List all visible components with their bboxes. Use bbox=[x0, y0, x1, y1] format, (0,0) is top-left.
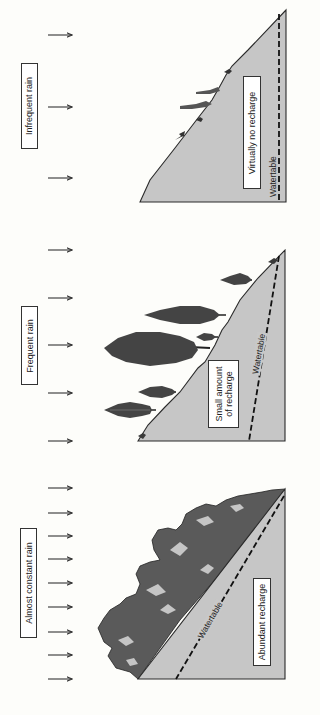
rain-label-frequent: Frequent rain bbox=[21, 306, 38, 385]
rain-label-text: Frequent rain bbox=[25, 319, 35, 373]
conifer-tree-icon bbox=[104, 332, 210, 366]
rain-arrows bbox=[48, 35, 72, 178]
watertable-label: Watertable bbox=[268, 156, 278, 197]
conifer-tree-icon bbox=[138, 386, 176, 398]
rain-arrows bbox=[48, 250, 72, 441]
rain-label-text: Almost constant rain bbox=[24, 542, 34, 624]
conifer-tree-icon bbox=[220, 273, 252, 285]
conifer-tree-icon bbox=[144, 306, 226, 324]
rain-label-infrequent: Infrequent rain bbox=[21, 63, 38, 149]
rain-label-almost-constant: Almost constant rain bbox=[20, 528, 37, 638]
recharge-label-text: Virtually no recharge bbox=[247, 91, 257, 173]
conifer-tree-icon bbox=[104, 402, 156, 418]
recharge-label-text: Small amount of recharge bbox=[214, 366, 234, 421]
panel-frequent-rain bbox=[48, 250, 285, 441]
conifer-tree-icon bbox=[196, 333, 218, 341]
panel-almost-constant-rain bbox=[48, 488, 285, 679]
recharge-label-abundant: Abundant recharge bbox=[253, 578, 271, 666]
hillslope-ground bbox=[140, 10, 286, 202]
recharge-label-text: Abundant recharge bbox=[257, 584, 267, 661]
rain-arrows bbox=[48, 488, 72, 679]
watertable-label-text: Watertable bbox=[268, 156, 278, 197]
recharge-label-line2: of recharge bbox=[224, 366, 234, 421]
rain-label-text: Infrequent rain bbox=[25, 77, 35, 135]
recharge-label-small: Small amount of recharge bbox=[208, 360, 239, 428]
recharge-label-virtually-none: Virtually no recharge bbox=[243, 76, 261, 189]
recharge-label-line1: Small amount bbox=[214, 366, 224, 421]
